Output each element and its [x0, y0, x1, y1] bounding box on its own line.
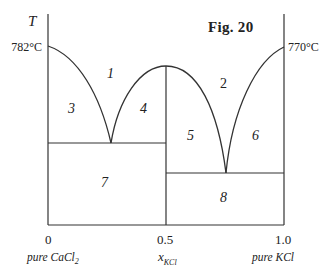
left-component-subscript: 2: [75, 257, 79, 266]
right-component-label: pure KCl: [252, 252, 294, 264]
region-8-label: 8: [220, 191, 227, 205]
y-axis-label: T: [28, 14, 36, 29]
x-axis-label: xKCl: [158, 250, 177, 267]
region-6-label: 6: [252, 129, 259, 143]
left-component-text: pure CaCl: [27, 251, 75, 263]
liquidus-curve-compound-left: [111, 66, 166, 143]
x-tick-10: 1.0: [275, 233, 291, 246]
region-1-label: 1: [107, 67, 114, 81]
x-tick-0: 0: [45, 233, 52, 246]
liquidus-curve-left: [48, 46, 111, 143]
melting-point-right: 770°C: [288, 41, 319, 53]
region-2-label: 2: [220, 77, 227, 91]
left-component-label: pure CaCl2: [27, 252, 79, 266]
liquidus-curve-compound-right: [166, 66, 226, 173]
region-3-label: 3: [68, 102, 75, 116]
region-4-label: 4: [140, 102, 147, 116]
region-7-label: 7: [101, 176, 108, 190]
melting-point-left: 782°C: [3, 41, 42, 53]
x-tick-05: 0.5: [157, 233, 173, 246]
x-axis-label-subscript: KCl: [164, 258, 177, 267]
liquidus-curve-right: [226, 47, 284, 173]
figure-title: Fig. 20: [208, 20, 253, 35]
region-5-label: 5: [187, 129, 194, 143]
